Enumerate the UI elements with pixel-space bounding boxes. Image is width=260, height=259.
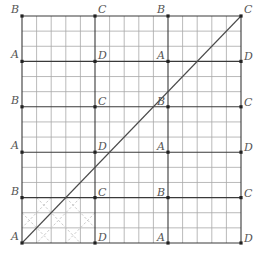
corner-label-b: B: [10, 3, 19, 16]
corner-dot: [20, 105, 23, 108]
corner-label-a: A: [10, 230, 19, 243]
corner-labels: BCBCADADBCBCADADBCBCADAD: [10, 3, 253, 245]
corner-dot: [20, 14, 23, 17]
corner-label-d: D: [97, 140, 107, 153]
corner-label-a: A: [10, 139, 19, 152]
corner-dot: [93, 196, 96, 199]
corner-dot: [239, 105, 242, 108]
corner-label-d: D: [243, 50, 253, 63]
grid-diagram: BCBCADADBCBCADADBCBCADAD: [0, 0, 260, 259]
corner-dot: [166, 151, 169, 154]
corner-label-c: C: [98, 3, 107, 16]
corner-dot: [239, 14, 242, 17]
corner-label-b: B: [10, 94, 19, 107]
corner-dot: [166, 241, 169, 244]
corner-label-b: B: [156, 95, 165, 108]
corner-dot: [239, 241, 242, 244]
corner-dot: [20, 60, 23, 63]
corner-dot: [93, 60, 96, 63]
corner-dot: [93, 14, 96, 17]
corner-label-b: B: [156, 186, 165, 199]
corner-dot: [20, 241, 23, 244]
corner-label-c: C: [244, 187, 253, 200]
corner-label-a: A: [10, 48, 19, 61]
corner-dot: [166, 14, 169, 17]
corner-label-a: A: [156, 140, 165, 153]
corner-dot: [20, 151, 23, 154]
corner-dot: [166, 105, 169, 108]
corner-dot: [239, 151, 242, 154]
corner-dot: [93, 105, 96, 108]
corner-dot: [93, 151, 96, 154]
corner-label-d: D: [243, 232, 253, 245]
corner-dot: [93, 241, 96, 244]
corner-label-a: A: [156, 49, 165, 62]
corner-dot: [239, 196, 242, 199]
corner-dot: [20, 196, 23, 199]
corner-label-c: C: [98, 95, 107, 108]
main-diagonal-line: [22, 16, 241, 243]
corner-label-d: D: [97, 231, 107, 244]
corner-label-c: C: [98, 186, 107, 199]
corner-label-a: A: [156, 231, 165, 244]
corner-label-d: D: [97, 49, 107, 62]
corner-label-b: B: [10, 185, 19, 198]
corner-dot: [166, 60, 169, 63]
corner-dot: [166, 196, 169, 199]
corner-label-b: B: [156, 3, 165, 16]
corner-label-c: C: [244, 3, 253, 16]
corner-dot: [239, 60, 242, 63]
corner-label-d: D: [243, 141, 253, 154]
corner-label-c: C: [244, 96, 253, 109]
